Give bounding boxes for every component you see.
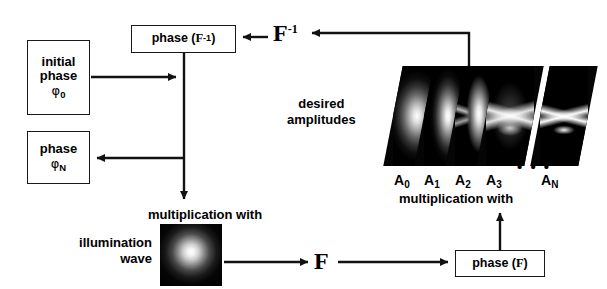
amplitude-label-an-symbol: A bbox=[541, 172, 551, 188]
amplitude-label-a0-subscript: 0 bbox=[404, 179, 410, 190]
amplitude-label-a2-symbol: A bbox=[455, 172, 465, 188]
box-phase-fourier[interactable]: phase (F) bbox=[455, 250, 545, 277]
amplitude-label-a1-subscript: 1 bbox=[434, 179, 440, 190]
amplitude-label-a3: A3 bbox=[486, 172, 502, 190]
label-illumination-wave-line2: wave bbox=[34, 251, 152, 267]
box-phase-finv-superscript: -1 bbox=[203, 34, 211, 43]
amplitude-panel-an-image bbox=[540, 66, 588, 166]
label-multiplication-with-illumination: multiplication with bbox=[148, 207, 262, 222]
box-initial-phase-line2: phase bbox=[40, 69, 78, 83]
amplitude-label-a0: A0 bbox=[394, 172, 410, 190]
amplitude-label-a2: A2 bbox=[455, 172, 471, 190]
box-phase-f-prefix: phase ( bbox=[472, 257, 516, 270]
illumination-wave-image bbox=[160, 224, 222, 286]
box-phase-finv-prefix: phase ( bbox=[152, 32, 196, 45]
label-desired-amplitudes: desired amplitudes bbox=[287, 96, 356, 129]
box-phase-n-symbol: φN bbox=[51, 157, 66, 173]
amplitude-label-a0-symbol: A bbox=[394, 172, 404, 188]
amplitude-label-a1-symbol: A bbox=[424, 172, 434, 188]
operator-fourier-symbol: F bbox=[314, 248, 329, 274]
label-illumination-wave-line1: illumination bbox=[34, 235, 152, 251]
box-phase-f-symbol: F bbox=[516, 257, 524, 270]
box-phase-inverse-fourier[interactable]: phase (F-1) bbox=[131, 25, 236, 53]
box-phase-finv-symbol: F bbox=[195, 32, 203, 45]
operator-inverse-fourier: F-1 bbox=[273, 20, 298, 47]
amplitude-label-an-subscript: N bbox=[551, 179, 558, 190]
amplitude-label-an: AN bbox=[541, 172, 558, 190]
operator-inverse-fourier-symbol: F bbox=[273, 20, 288, 46]
box-phase-n-line1: phase bbox=[40, 142, 78, 156]
label-illumination-wave: illumination wave bbox=[34, 235, 152, 268]
amplitude-label-a3-subscript: 3 bbox=[496, 179, 502, 190]
operator-inverse-fourier-superscript: -1 bbox=[288, 22, 298, 36]
box-phase-f-suffix: ) bbox=[524, 257, 528, 270]
amplitude-label-a3-symbol: A bbox=[486, 172, 496, 188]
box-initial-phase-line1: initial bbox=[42, 55, 76, 69]
box-phase-n[interactable]: phase φN bbox=[27, 131, 90, 184]
amplitude-label-a1: A1 bbox=[424, 172, 440, 190]
amplitude-panel-a3-image bbox=[486, 66, 534, 166]
label-desired-amplitudes-line2: amplitudes bbox=[287, 112, 356, 128]
box-phase-finv-suffix: ) bbox=[211, 32, 215, 45]
operator-fourier: F bbox=[314, 248, 329, 275]
box-initial-phase-symbol: φ0 bbox=[52, 84, 66, 100]
label-desired-amplitudes-line1: desired bbox=[287, 96, 356, 112]
amplitude-label-a2-subscript: 2 bbox=[465, 179, 471, 190]
diagram-canvas: initial phase φ0 phase φN phase (F-1) ph… bbox=[0, 0, 607, 289]
box-initial-phase[interactable]: initial phase φ0 bbox=[27, 40, 90, 115]
label-multiplication-with-amplitudes: multiplication with bbox=[399, 191, 513, 206]
